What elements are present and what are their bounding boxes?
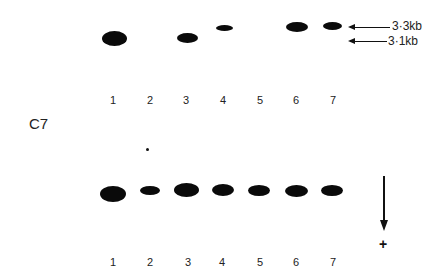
top-band-lane-3 <box>177 33 198 43</box>
top-band-lane-6 <box>286 22 308 32</box>
bottom-lane-label-2: 2 <box>147 256 153 268</box>
bottom-lane-label-7: 7 <box>330 256 336 268</box>
marker-label-3-1kb: 3·1kb <box>388 34 418 48</box>
marker-arrow-line-3-3kb <box>354 27 390 28</box>
bottom-band-lane-1 <box>100 186 126 202</box>
bottom-band-lane-2 <box>140 186 160 195</box>
artifact-dot <box>146 148 149 151</box>
bottom-band-lane-5 <box>248 185 270 196</box>
top-lane-label-1: 1 <box>110 94 116 106</box>
bottom-band-lane-3 <box>174 183 199 197</box>
top-lane-label-3: 3 <box>183 94 189 106</box>
bottom-lane-label-3: 3 <box>185 256 191 268</box>
top-lane-label-4: 4 <box>220 94 226 106</box>
anode-plus-symbol: + <box>379 236 387 252</box>
marker-label-3-3kb: 3·3kb <box>392 19 422 33</box>
bottom-band-lane-6 <box>285 185 308 197</box>
top-band-lane-1 <box>102 31 127 46</box>
top-lane-label-7: 7 <box>330 94 336 106</box>
bottom-lane-label-6: 6 <box>293 256 299 268</box>
top-band-lane-7 <box>323 22 342 30</box>
migration-arrow-head <box>380 220 388 231</box>
bottom-lane-label-1: 1 <box>110 256 116 268</box>
marker-arrow-line-3-1kb <box>354 41 387 42</box>
top-lane-label-2: 2 <box>147 94 153 106</box>
top-lane-label-5: 5 <box>257 94 263 106</box>
panel-label: C7 <box>29 115 48 132</box>
top-lane-label-6: 6 <box>293 94 299 106</box>
top-band-lane-4 <box>216 25 233 31</box>
migration-arrow-line <box>383 176 385 224</box>
bottom-lane-label-5: 5 <box>257 256 263 268</box>
bottom-lane-label-4: 4 <box>219 256 225 268</box>
bottom-band-lane-7 <box>321 185 343 196</box>
bottom-band-lane-4 <box>212 184 234 196</box>
